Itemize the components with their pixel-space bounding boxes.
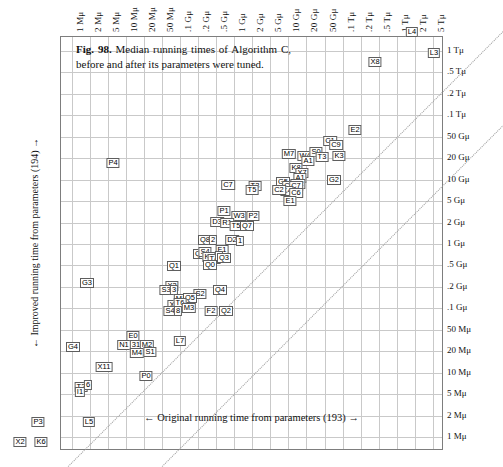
- y-tick-label: 2 Gμ: [447, 217, 465, 227]
- y-tick-label: 1 Mμ: [447, 431, 467, 441]
- x-tick-label: 20 Gμ: [309, 8, 319, 32]
- data-point-label: C2: [272, 185, 286, 195]
- y-tick-label: .2 Gμ: [447, 281, 467, 291]
- y-gridline: [61, 115, 442, 116]
- y-tick-label: 20 Gμ: [447, 152, 470, 162]
- data-point-label: M7: [282, 149, 296, 159]
- x-gridline: [126, 37, 127, 449]
- data-point-label: X2: [13, 437, 26, 447]
- y-axis-title: ← Improved running time from parameters …: [26, 36, 42, 450]
- data-point-label: Q0: [203, 260, 217, 270]
- x-gridline: [379, 37, 380, 449]
- x-gridline: [397, 37, 398, 449]
- y-tick-label: 5 Gμ: [447, 195, 465, 205]
- y-gridline: [61, 265, 442, 266]
- data-point-label: G2: [327, 175, 341, 185]
- x-tick-label: 1 Mμ: [75, 12, 85, 32]
- plot-area: [60, 36, 443, 450]
- x-gridline: [343, 37, 344, 449]
- data-point-label: Q7: [240, 221, 254, 231]
- y-gridline: [61, 72, 442, 73]
- data-point-label: M3: [182, 303, 196, 313]
- data-point-label: T5: [246, 185, 259, 195]
- y-gridline: [61, 394, 442, 395]
- y-gridline: [61, 351, 442, 352]
- data-point-label: Q1: [167, 261, 181, 271]
- y-gridline: [61, 201, 442, 202]
- y-tick-label: .1 Tμ: [447, 109, 466, 119]
- data-point-label: X8: [368, 57, 381, 67]
- data-point-label: K6: [34, 437, 47, 447]
- y-gridline: [61, 308, 442, 309]
- data-point-label: L7: [174, 336, 186, 346]
- x-tick-label: 5 Tμ: [436, 14, 446, 32]
- y-tick-label: 2 Mμ: [447, 410, 467, 420]
- x-tick-label: .2 Gμ: [201, 11, 211, 32]
- y-tick-label: 20 Mμ: [447, 345, 471, 355]
- data-point-label: L3: [428, 48, 440, 58]
- data-point-label: C9: [329, 140, 343, 150]
- x-tick-label: .5 Gμ: [219, 11, 229, 32]
- data-point-label: M4: [130, 348, 144, 358]
- y-tick-label: 5 Mμ: [447, 388, 467, 398]
- data-point-label: C7: [221, 180, 235, 190]
- figure-caption: Fig. 98. Median running times of Algorit…: [76, 42, 291, 71]
- data-point-label: T3: [316, 152, 329, 162]
- x-gridline: [72, 37, 73, 449]
- y-gridline: [61, 94, 442, 95]
- x-tick-label: 2 Tμ: [418, 14, 428, 32]
- y-gridline: [61, 244, 442, 245]
- x-tick-label: 20 Mμ: [147, 7, 157, 32]
- x-tick-label: .1 Tμ: [346, 12, 356, 32]
- data-point-label: P4: [106, 158, 119, 168]
- x-gridline: [252, 37, 253, 449]
- x-tick-label: 1 Gμ: [237, 13, 247, 32]
- y-tick-label: 1 Gμ: [447, 238, 465, 248]
- data-point-label: 1: [236, 236, 244, 246]
- y-tick-label: 10 Mμ: [447, 367, 471, 377]
- x-tick-label: 5 Mμ: [111, 12, 121, 32]
- data-point-label: G3: [80, 278, 94, 288]
- figure-caption-number: Fig. 98.: [76, 43, 112, 55]
- x-tick-label: .1 Gμ: [183, 11, 193, 32]
- y-gridline: [61, 437, 442, 438]
- x-tick-label: 10 Gμ: [291, 8, 301, 32]
- y-gridline: [61, 137, 442, 138]
- x-tick-label: 50 Mμ: [165, 7, 175, 32]
- x-tick-label: 5 Gμ: [273, 13, 283, 32]
- data-point-label: Q4: [213, 285, 227, 295]
- data-point-label: E2: [348, 125, 361, 135]
- x-gridline: [306, 37, 307, 449]
- data-point-label: K3: [332, 151, 345, 161]
- x-tick-label: 2 Gμ: [255, 13, 265, 32]
- y-gridline: [61, 330, 442, 331]
- data-point-label: P3: [31, 417, 44, 427]
- data-point-label: A1: [301, 156, 314, 166]
- x-gridline: [180, 37, 181, 449]
- y-tick-label: 50 Gμ: [447, 131, 470, 141]
- y-tick-label: 10 Gμ: [447, 174, 470, 184]
- x-tick-label: 50 Gμ: [328, 8, 338, 32]
- x-gridline: [270, 37, 271, 449]
- x-gridline: [433, 37, 434, 449]
- x-gridline: [162, 37, 163, 449]
- y-tick-label: .5 Gμ: [447, 259, 467, 269]
- y-gridline: [61, 287, 442, 288]
- y-tick-label: 50 Mμ: [447, 324, 471, 334]
- data-point-label: P2: [246, 211, 259, 221]
- x-gridline: [325, 37, 326, 449]
- data-point-label: N1: [117, 340, 131, 350]
- y-tick-label: .1 Gμ: [447, 302, 467, 312]
- data-point-label: S1: [143, 347, 156, 357]
- data-point-label: F2: [205, 306, 218, 316]
- y-axis-title-text: ← Improved running time from parameters …: [29, 138, 40, 348]
- data-point-label: L4: [406, 27, 418, 37]
- data-point-label: E1: [283, 196, 296, 206]
- data-point-label: P0: [139, 371, 152, 381]
- y-gridline: [61, 373, 442, 374]
- data-point-label: P1: [217, 206, 230, 216]
- data-point-label: G4: [66, 342, 80, 352]
- data-point-label: 8: [174, 306, 182, 316]
- x-tick-label: 10 Mμ: [129, 7, 139, 32]
- x-tick-label: 2 Mμ: [93, 12, 103, 32]
